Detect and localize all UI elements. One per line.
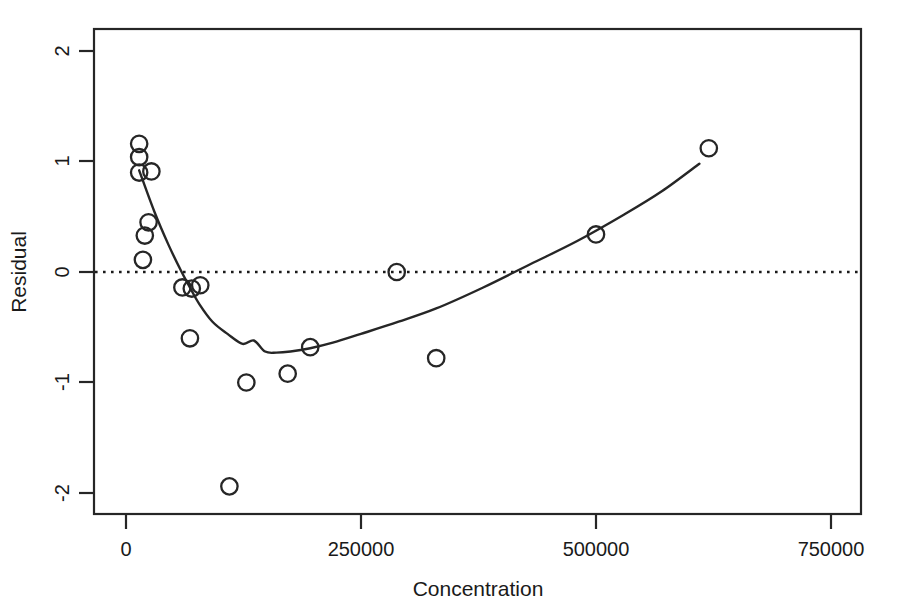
x-tick-label: 250000 xyxy=(328,538,395,560)
y-tick-label: 1 xyxy=(51,155,73,166)
y-tick-label: 2 xyxy=(51,45,73,56)
x-tick-label: 0 xyxy=(120,538,131,560)
y-tick-label: -1 xyxy=(51,373,73,391)
y-tick-label: 0 xyxy=(51,266,73,277)
x-tick-label: 500000 xyxy=(563,538,630,560)
y-tick-label: -2 xyxy=(51,484,73,502)
y-axis-title: Residual xyxy=(7,231,30,313)
x-axis-title: Concentration xyxy=(413,577,544,600)
chart-figure: 2 1 0 -1 -2 0 250000 500000 750000 Conce… xyxy=(0,0,903,613)
x-tick-label: 750000 xyxy=(798,538,865,560)
residual-scatter-plot: 2 1 0 -1 -2 0 250000 500000 750000 Conce… xyxy=(0,0,903,613)
figure-background xyxy=(0,0,903,613)
